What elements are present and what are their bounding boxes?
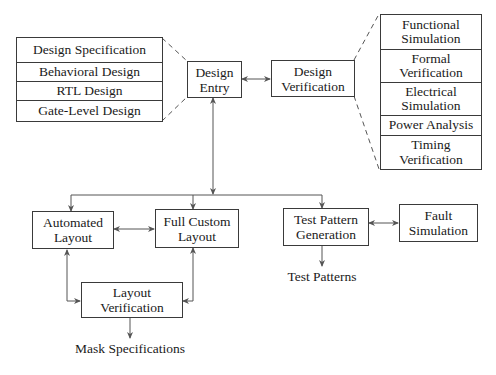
arrow-automated-layoutverif	[67, 250, 80, 301]
design-entry-box: Design Entry	[187, 61, 242, 98]
method-formal-verification: Formal Verification	[381, 50, 481, 83]
design-verification-box: Design Verification	[271, 60, 355, 97]
mask-specifications-label: Mask Specifications	[60, 341, 200, 357]
automated-layout-box: Automated Layout	[32, 211, 114, 249]
full-custom-layout-box: Full Custom Layout	[155, 209, 239, 248]
dashed-line-entry-bottom	[162, 97, 187, 121]
dashed-line-entry-top	[162, 38, 187, 61]
design-entry-methods: Design Specification Behavioral Design R…	[16, 37, 163, 122]
layout-verification-box: Layout Verification	[81, 282, 183, 318]
dashed-line-verif-bottom	[354, 96, 379, 169]
method-behavioral-design: Behavioral Design	[17, 63, 162, 82]
method-timing-verification: Timing Verification	[381, 136, 481, 169]
method-design-specification: Design Specification	[17, 38, 162, 63]
arrow-fullcustom-layoutverif	[183, 248, 193, 301]
method-electrical-simulation: Electrical Simulation	[381, 83, 481, 116]
test-pattern-generation-box: Test Pattern Generation	[283, 208, 369, 246]
verification-methods: Functional Simulation Formal Verificatio…	[380, 14, 482, 170]
test-patterns-label: Test Patterns	[272, 269, 372, 285]
dashed-line-verif-top	[354, 14, 379, 60]
fault-simulation-box: Fault Simulation	[399, 204, 478, 242]
method-power-analysis: Power Analysis	[381, 116, 481, 136]
method-functional-simulation: Functional Simulation	[381, 15, 481, 50]
method-rtl-design: RTL Design	[17, 82, 162, 101]
method-gate-level-design: Gate-Level Design	[17, 101, 162, 121]
